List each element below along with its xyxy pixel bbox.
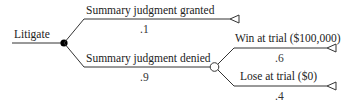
branch-granted-probability: .1	[140, 23, 149, 35]
terminal-triangle-icon	[327, 82, 336, 90]
terminal-triangle-icon	[327, 44, 336, 52]
branch-win-probability: .6	[275, 52, 284, 64]
branch-lose-label: Lose at trial ($0)	[240, 70, 317, 83]
root-label: Litigate	[14, 28, 50, 41]
chance-node-icon	[210, 63, 219, 72]
decision-tree-diagram: Litigate Summary judgment granted .1 Sum…	[0, 0, 347, 106]
branch-granted-label: Summary judgment granted	[86, 4, 215, 17]
branch-denied-label: Summary judgment denied	[86, 52, 211, 65]
branch-win-label: Win at trial ($100,000)	[235, 32, 341, 45]
branch-win-line	[218, 48, 327, 64]
branch-denied-probability: .9	[140, 71, 149, 83]
terminal-triangle-icon	[230, 15, 239, 23]
branch-lose-probability: .4	[275, 90, 284, 102]
